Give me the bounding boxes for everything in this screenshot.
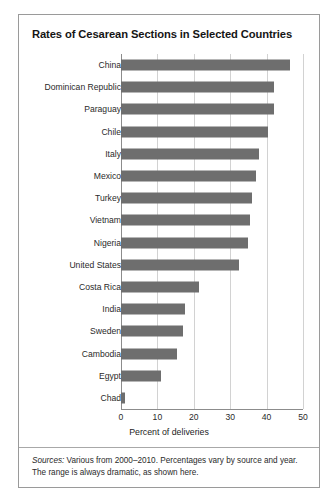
- category-label-costa-rica: Costa Rica: [79, 282, 121, 292]
- chart-row: Costa Rica: [19, 276, 319, 298]
- chart-row: Nigeria: [19, 232, 319, 254]
- bar-chad: [121, 392, 125, 403]
- chart-row: Chile: [19, 121, 319, 143]
- category-label-china: China: [99, 60, 121, 70]
- plot-area: ChinaDominican RepublicParaguayChileItal…: [19, 54, 319, 409]
- tick-label-50: 50: [298, 412, 308, 422]
- chart-figure: Rates of Cesarean Sections in Selected C…: [18, 14, 320, 488]
- category-label-paraguay: Paraguay: [84, 104, 121, 114]
- tick-label-30: 30: [225, 412, 235, 422]
- category-label-mexico: Mexico: [94, 171, 121, 181]
- chart-row: India: [19, 298, 319, 320]
- source-body: Various from 2000–2010. Percentages vary…: [32, 456, 298, 477]
- chart-row: Vietnam: [19, 209, 319, 231]
- source-note: Sources: Various from 2000–2010. Percent…: [32, 455, 307, 478]
- bar-egypt: [121, 370, 161, 381]
- category-label-nigeria: Nigeria: [94, 238, 121, 248]
- chart-row: Egypt: [19, 365, 319, 387]
- category-label-chile: Chile: [101, 127, 121, 137]
- tick-label-20: 20: [189, 412, 199, 422]
- chart-row: Turkey: [19, 187, 319, 209]
- note-divider: [19, 447, 319, 448]
- chart-row: Cambodia: [19, 342, 319, 364]
- bar-italy: [121, 148, 259, 159]
- source-label: Sources:: [32, 456, 64, 465]
- category-label-chad: Chad: [100, 393, 121, 403]
- bar-paraguay: [121, 104, 274, 115]
- category-label-vietnam: Vietnam: [90, 215, 121, 225]
- chart-row: Paraguay: [19, 98, 319, 120]
- chart-row: Mexico: [19, 165, 319, 187]
- category-label-turkey: Turkey: [95, 193, 121, 203]
- chart-title: Rates of Cesarean Sections in Selected C…: [32, 28, 292, 40]
- chart-row: Chad: [19, 387, 319, 409]
- bar-cambodia: [121, 348, 177, 359]
- category-label-dominican-republic: Dominican Republic: [45, 82, 121, 92]
- chart-row: Dominican Republic: [19, 76, 319, 98]
- tick-label-10: 10: [153, 412, 163, 422]
- category-label-egypt: Egypt: [99, 371, 121, 381]
- x-axis-label: Percent of deliveries: [19, 427, 319, 437]
- bar-costa-rica: [121, 281, 199, 292]
- chart-row: Italy: [19, 143, 319, 165]
- bar-nigeria: [121, 237, 248, 248]
- chart-row: China: [19, 54, 319, 76]
- bar-turkey: [121, 193, 252, 204]
- bar-chile: [121, 126, 268, 137]
- tick-label-0: 0: [119, 412, 124, 422]
- category-label-india: India: [102, 304, 121, 314]
- chart-row: United States: [19, 254, 319, 276]
- category-label-united-states: United States: [69, 260, 121, 270]
- bar-china: [121, 60, 290, 71]
- chart-row: Sweden: [19, 320, 319, 342]
- bar-dominican-republic: [121, 82, 274, 93]
- bar-vietnam: [121, 215, 250, 226]
- bar-united-states: [121, 259, 239, 270]
- bar-sweden: [121, 326, 183, 337]
- category-label-sweden: Sweden: [90, 326, 121, 336]
- x-axis-line: [121, 409, 303, 410]
- bar-india: [121, 304, 185, 315]
- category-label-italy: Italy: [105, 149, 121, 159]
- category-label-cambodia: Cambodia: [82, 349, 121, 359]
- bar-mexico: [121, 171, 256, 182]
- tick-label-40: 40: [262, 412, 272, 422]
